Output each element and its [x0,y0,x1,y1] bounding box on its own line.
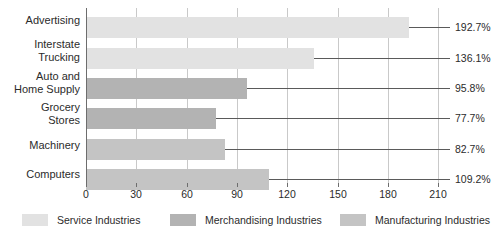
tick-label-60: 60 [167,188,207,200]
bar-auto-and-home-supply [86,78,247,99]
leader-line-interstate-trucking [314,58,450,59]
leader-line-grocery-stores [216,118,450,119]
legend-label-service-industries: Service Industries [57,214,140,226]
legend-swatch-service-industries [22,214,48,226]
tick-label-30: 30 [116,188,156,200]
tick-mark-60 [187,183,188,187]
tick-label-180: 180 [368,188,408,200]
bar-computers [86,169,269,190]
tick-label-0: 0 [66,188,106,200]
category-label-auto-and-home-supply: Auto and Home Supply [0,70,80,95]
category-label-grocery-stores: Grocery Stores [0,101,80,126]
legend-label-merchandising-industries: Merchandising Industries [205,214,322,226]
legend-swatch-manufacturing-industries [340,214,366,226]
value-label-advertising: 192.7% [455,21,491,33]
tick-mark-210 [438,183,439,187]
category-label-interstate-trucking: Interstate Trucking [0,38,80,63]
value-label-grocery-stores: 77.7% [455,112,485,124]
tick-mark-120 [287,183,288,187]
value-label-auto-and-home-supply: 95.8% [455,82,485,94]
legend-label-manufacturing-industries: Manufacturing Industries [375,214,490,226]
legend-item-service-industries[interactable]: Service Industries [22,206,140,233]
chart-legend: Service Industries Merchandising Industr… [0,206,501,233]
bar-machinery [86,139,225,160]
tick-mark-150 [338,183,339,187]
gridline-210 [438,8,439,183]
tick-mark-30 [136,183,137,187]
value-label-computers: 109.2% [455,173,491,185]
value-label-interstate-trucking: 136.1% [455,52,491,64]
value-label-machinery: 82.7% [455,143,485,155]
tick-mark-180 [388,183,389,187]
legend-item-merchandising-industries[interactable]: Merchandising Industries [170,206,322,233]
plot-area [86,8,438,183]
legend-item-manufacturing-industries[interactable]: Manufacturing Industries [340,206,490,233]
tick-label-210: 210 [418,188,458,200]
leader-line-computers [269,179,450,180]
legend-swatch-merchandising-industries [170,214,196,226]
leader-line-advertising [409,27,450,28]
bar-interstate-trucking [86,48,314,69]
bar-chart: Advertising Interstate Trucking Auto and… [0,0,501,233]
tick-label-90: 90 [217,188,257,200]
category-label-machinery: Machinery [0,139,80,152]
bar-grocery-stores [86,108,216,129]
leader-line-machinery [225,149,450,150]
leader-line-auto-and-home-supply [247,88,450,89]
category-label-advertising: Advertising [0,14,80,27]
y-axis-line [86,8,87,183]
bar-advertising [86,17,409,38]
tick-mark-0 [86,183,87,187]
category-label-computers: Computers [0,168,80,181]
tick-mark-90 [237,183,238,187]
tick-label-150: 150 [318,188,358,200]
tick-label-120: 120 [267,188,307,200]
